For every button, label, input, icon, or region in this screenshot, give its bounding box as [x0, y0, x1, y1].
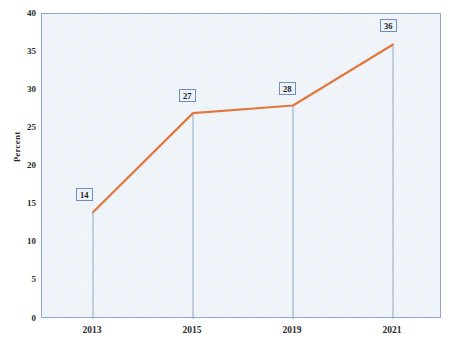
x-tick-label: 2013: [62, 326, 122, 336]
data-point-label: 36: [380, 19, 397, 32]
plot-area: 14272836: [41, 13, 441, 318]
x-tick-label: 2021: [362, 326, 422, 336]
x-tick-label: 2015: [162, 326, 222, 336]
data-point-label: 14: [76, 188, 93, 201]
data-point-label: 27: [179, 89, 196, 102]
x-tick-label: 2019: [262, 326, 322, 336]
data-point-label: 28: [279, 82, 296, 95]
line-chart: Percent 0510152025303540 201320152019202…: [0, 0, 455, 348]
plot-svg: [42, 14, 442, 319]
series-line: [93, 45, 393, 213]
